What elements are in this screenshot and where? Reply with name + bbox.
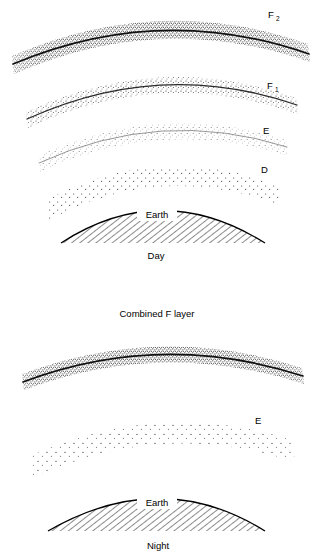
layer-label-f2: F [268, 9, 274, 20]
panel-caption-night: Night [147, 540, 170, 551]
ionosphere-diagram: F 2 F 1 E D Earth Day [0, 0, 323, 559]
layer-label-f2-subscript: 2 [276, 15, 280, 22]
earth-label-night: Earth [146, 497, 169, 508]
figure-canvas: F 2 F 1 E D Earth Day [0, 0, 323, 559]
layer-label-d-day: D [261, 164, 268, 175]
panel-caption-day: Day [148, 250, 165, 261]
layer-label-e-night: E [255, 415, 261, 426]
layer-label-combined-f: Combined F layer [120, 308, 195, 319]
earth-label-day: Earth [146, 209, 169, 220]
layer-label-e-day: E [263, 125, 269, 136]
layer-label-f1: F [267, 80, 273, 91]
layer-label-f1-subscript: 1 [275, 86, 279, 93]
